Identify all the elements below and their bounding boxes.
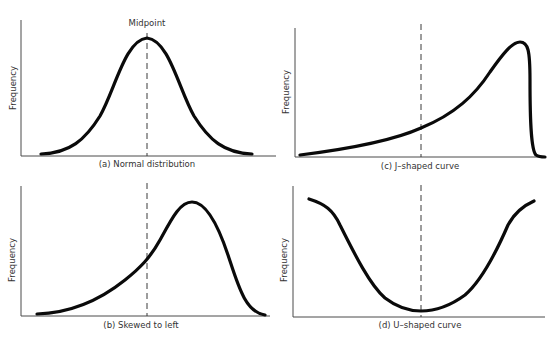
panel-b-y-label: Frequency (7, 238, 17, 282)
panel-b-curve (37, 202, 265, 315)
panel-c-caption: (c) J–shaped curve (381, 161, 459, 171)
panel-a-midpoint-label: Midpoint (129, 18, 166, 28)
figure-canvas: Midpoint Frequency (a) Normal distributi… (0, 0, 558, 341)
panel-d-y-label: Frequency (279, 238, 289, 282)
panel-c-j-shaped-curve: Frequency (c) J–shaped curve (281, 24, 546, 171)
panel-b-skewed-left: Frequency (b) Skewed to left (7, 183, 270, 330)
panel-a-normal-distribution: Midpoint Frequency (a) Normal distributi… (8, 18, 276, 169)
panel-c-curve (300, 42, 545, 157)
panel-a-y-label: Frequency (8, 66, 18, 110)
panel-a-caption: (a) Normal distribution (99, 159, 195, 169)
panel-c-y-label: Frequency (281, 70, 291, 114)
panel-d-u-shaped-curve: Frequency (d) U–shaped curve (279, 185, 545, 330)
panel-b-caption: (b) Skewed to left (103, 320, 179, 330)
panel-d-caption: (d) U–shaped curve (379, 320, 462, 330)
